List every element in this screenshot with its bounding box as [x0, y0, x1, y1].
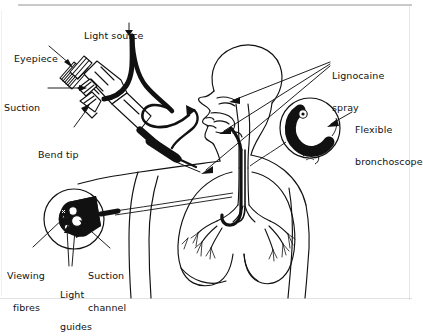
inset-airway-view — [250, 98, 340, 166]
inset-tip-cross-section — [44, 189, 233, 249]
label-bend-tip: Bend tip — [38, 129, 79, 182]
label-suction: Suction — [4, 82, 40, 135]
label-light-source: Light source — [84, 10, 143, 63]
bronchial-tree — [182, 168, 295, 261]
label-flexible-bronchoscope: Flexible bronchoscope — [355, 104, 423, 188]
label-suction-channel: Suction channel — [88, 250, 126, 334]
label-eyepiece: Eyepiece — [14, 33, 58, 86]
label-viewing-fibres: Viewing fibres — [7, 250, 45, 334]
leader-bend-tip — [74, 104, 90, 127]
